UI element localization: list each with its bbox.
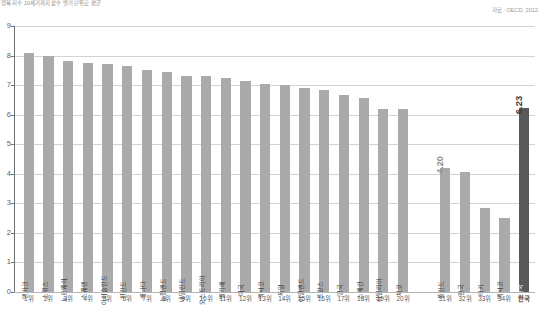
bar[interactable] <box>122 66 132 292</box>
rank-label: 10위 <box>196 294 216 303</box>
bar[interactable] <box>162 72 172 292</box>
bar[interactable] <box>142 70 152 292</box>
rank-label: 34위 <box>495 294 515 303</box>
bar-slot: 미국 <box>236 26 256 292</box>
bar[interactable] <box>83 63 93 292</box>
rank-label: 5위 <box>98 294 118 303</box>
bar[interactable] <box>460 172 470 292</box>
rank-label: 15위 <box>295 294 315 303</box>
y-axis-tick-label: 1 <box>2 258 11 266</box>
bar-value-label: 4.20 <box>435 156 445 174</box>
bar[interactable] <box>240 81 250 292</box>
y-axis-tick-label: 7 <box>2 81 11 89</box>
chart-title: 행복 지수 10세기까지 삶수 별의 단위로 평균 <box>1 0 101 7</box>
rank-label: 12위 <box>236 294 256 303</box>
bar[interactable] <box>378 109 388 292</box>
bar-slot: 프랑스 <box>314 26 334 292</box>
bar-slot: 핀란드 <box>117 26 137 292</box>
y-axis-tick-label: 2 <box>2 229 11 237</box>
bar[interactable] <box>221 78 231 292</box>
bar-slot: 아일랜드 <box>295 26 315 292</box>
rank-label: 18위 <box>354 294 374 303</box>
y-axis-tick-label: 9 <box>2 22 11 30</box>
rank-label: 한국 <box>514 294 534 303</box>
bar[interactable] <box>201 76 211 292</box>
bar[interactable] <box>359 98 369 292</box>
bar[interactable] <box>102 64 112 292</box>
bar-slot: 덴마크 <box>19 26 39 292</box>
bar[interactable] <box>299 88 309 292</box>
rank-label: 33위 <box>475 294 495 303</box>
rank-label: 19위 <box>373 294 393 303</box>
rank-label: 14위 <box>275 294 295 303</box>
bar[interactable] <box>260 84 270 292</box>
chart-source-note: 자료 : OECD, 2012 <box>492 7 538 14</box>
bar-slot: 터키 <box>475 26 495 292</box>
bar-slot: 폴란드4.20 <box>436 26 456 292</box>
rank-label: 16위 <box>314 294 334 303</box>
bar[interactable] <box>440 168 450 292</box>
bar-slot: 노르웨이 <box>58 26 78 292</box>
rank-label: 11위 <box>216 294 236 303</box>
bar-slot: 이탈리아 <box>373 26 393 292</box>
rank-label: 8위 <box>157 294 177 303</box>
bar-series: 덴마크스위스노르웨이스웨덴아이슬란드핀란드캐나다뉴질랜드네덜란드오스트리아벨기에… <box>14 26 535 292</box>
bar-slot: 스위스 <box>39 26 59 292</box>
rank-label: 17위 <box>334 294 354 303</box>
bar[interactable] <box>24 53 34 292</box>
y-axis-tick-label: 4 <box>2 170 11 178</box>
x-axis-line <box>14 292 535 293</box>
bar-slot: 한국6.23 <box>514 26 534 292</box>
bar-slot: 아이슬란드 <box>98 26 118 292</box>
bar[interactable] <box>181 76 191 292</box>
rank-label: 6위 <box>117 294 137 303</box>
rank-label: 32위 <box>455 294 475 303</box>
chart-screenshot: 행복 지수 10세기까지 삶수 별의 단위로 평균 자료 : OECD, 201… <box>0 0 541 315</box>
rank-label: 31위 <box>436 294 456 303</box>
bar-slot: 독일 <box>275 26 295 292</box>
rank-label: 4위 <box>78 294 98 303</box>
y-axis-tick-label: 5 <box>2 140 11 148</box>
bar-slot: 벨기에 <box>216 26 236 292</box>
bar-slot: 한국 <box>455 26 475 292</box>
plot-area: 0123456789 덴마크스위스노르웨이스웨덴아이슬란드핀란드캐나다뉴질랜드네… <box>14 26 535 292</box>
bar-slot: 오스트리아 <box>196 26 216 292</box>
rank-label: 9위 <box>177 294 197 303</box>
bar-slot: 스페인 <box>354 26 374 292</box>
rank-label: 3위 <box>58 294 78 303</box>
rank-label: 1위 <box>19 294 39 303</box>
rank-label: 7위 <box>137 294 157 303</box>
bar-slot: 캐나다 <box>137 26 157 292</box>
bar-slot: 뉴질랜드 <box>157 26 177 292</box>
bar-slot: 멕시코 <box>495 26 515 292</box>
rank-label: 20위 <box>393 294 413 303</box>
rank-label: 2위 <box>39 294 59 303</box>
y-axis-tick-label: 8 <box>2 52 11 60</box>
bar-slot: 멕시코 <box>255 26 275 292</box>
bar-highlighted[interactable] <box>519 108 529 292</box>
rank-axis: 1위2위3위4위5위6위7위8위9위10위11위12위13위14위15위16위1… <box>14 294 535 310</box>
bar[interactable] <box>43 56 53 292</box>
chart-header: 행복 지수 10세기까지 삶수 별의 단위로 평균 자료 : OECD, 201… <box>0 0 541 16</box>
bar-slot: 영국 <box>334 26 354 292</box>
rank-label: 13위 <box>255 294 275 303</box>
bar-value-label: 6.23 <box>514 96 524 114</box>
y-axis-tick-label: 3 <box>2 199 11 207</box>
bar[interactable] <box>280 85 290 292</box>
y-axis-tick-label: 6 <box>2 111 11 119</box>
bar[interactable] <box>339 95 349 292</box>
bar[interactable] <box>398 109 408 292</box>
bar[interactable] <box>480 208 490 292</box>
bar[interactable] <box>63 61 73 292</box>
bar[interactable] <box>319 90 329 292</box>
bar-slot: 체코 <box>393 26 413 292</box>
y-axis-tick-label: 0 <box>2 288 11 296</box>
bar-slot: 스웨덴 <box>78 26 98 292</box>
bar-slot: 네덜란드 <box>177 26 197 292</box>
